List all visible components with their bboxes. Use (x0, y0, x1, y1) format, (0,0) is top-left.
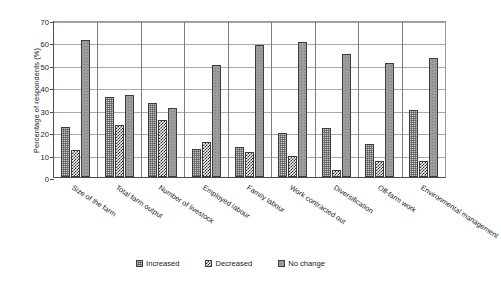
bar (419, 161, 428, 177)
bar (298, 42, 307, 177)
bar (61, 127, 70, 177)
x-label-slot: Number of livestock (140, 179, 184, 249)
x-label-slot: Environmental management (402, 179, 446, 249)
bar (365, 144, 374, 177)
x-label-slot: Employed labour (184, 179, 228, 249)
y-tick-label: 40 (41, 85, 49, 94)
y-tick-label: 20 (41, 130, 49, 139)
bar (168, 108, 177, 177)
bar-group (141, 22, 184, 177)
y-tick-label: 10 (41, 152, 49, 161)
plot-area: 706050403020100 (53, 21, 446, 178)
bar (71, 150, 80, 177)
legend-swatch-icon (136, 260, 143, 267)
legend-swatch-icon (278, 260, 285, 267)
y-tick-label: 60 (41, 40, 49, 49)
bar (125, 95, 134, 177)
x-label-slot: Off-farm work (359, 179, 403, 249)
bar (158, 120, 167, 177)
x-axis-labels: Size of the farmTotal farm outputNumber … (53, 179, 446, 249)
y-axis-title: Percentage of respondents (%) (32, 21, 41, 181)
legend-entry[interactable]: Decreased (205, 259, 252, 268)
bar-group (271, 22, 314, 177)
legend-label: Increased (146, 259, 179, 268)
bar-group (184, 22, 227, 177)
bar (385, 63, 394, 177)
bar-group (402, 22, 445, 177)
x-label-slot: Size of the farm (53, 179, 97, 249)
bar-group (54, 22, 97, 177)
x-label-slot: Work contracted out (271, 179, 315, 249)
x-label-slot: Total farm output (97, 179, 141, 249)
bar (375, 161, 384, 177)
bar (148, 103, 157, 177)
bar (245, 152, 254, 177)
bar-group (315, 22, 358, 177)
bar (235, 147, 244, 177)
y-tick-label: 0 (45, 175, 49, 184)
bar (409, 110, 418, 177)
bar-group (358, 22, 401, 177)
bar (212, 65, 221, 177)
x-tick-label: Environmental management (419, 183, 500, 240)
legend-entry[interactable]: No change (278, 259, 325, 268)
x-label-slot: Diversification (315, 179, 359, 249)
y-tick-label: 70 (41, 18, 49, 27)
y-tick-label: 30 (41, 107, 49, 116)
bar (81, 40, 90, 177)
bar (105, 97, 114, 177)
bar (288, 156, 297, 177)
bar-group (97, 22, 140, 177)
bar (255, 45, 264, 177)
chart-legend: IncreasedDecreasedNo change (0, 259, 461, 268)
legend-swatch-icon (205, 260, 212, 267)
bar (342, 54, 351, 177)
x-label-slot: Family labour (228, 179, 272, 249)
legend-label: No change (288, 259, 325, 268)
bar (192, 149, 201, 177)
y-tick-label: 50 (41, 62, 49, 71)
legend-entry[interactable]: Increased (136, 259, 179, 268)
bar (278, 133, 287, 177)
bar (429, 58, 438, 177)
bar (115, 125, 124, 177)
legend-label: Decreased (215, 259, 252, 268)
bar (332, 170, 341, 177)
bar (202, 142, 211, 177)
bar-group (228, 22, 271, 177)
bars-layer (54, 22, 445, 177)
bar (322, 128, 331, 177)
